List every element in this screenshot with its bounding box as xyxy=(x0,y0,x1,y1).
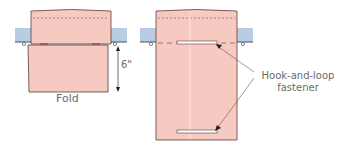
right-figure-full-panel xyxy=(140,10,254,141)
callout-line-1: Hook-and-loop xyxy=(256,70,338,82)
rod-ring-icon xyxy=(149,42,152,45)
full-panel xyxy=(156,10,237,141)
curtain-rod-right xyxy=(236,28,253,42)
rod-ring-icon xyxy=(113,42,116,45)
curtain-rod-left xyxy=(140,28,157,42)
fastener-callout: Hook-and-loop fastener xyxy=(256,70,338,94)
folded-flap xyxy=(28,45,108,92)
rod-ring-icon xyxy=(22,42,25,45)
callout-line-2: fastener xyxy=(256,82,338,94)
rod-ring-icon xyxy=(241,42,244,45)
curtain-rod-right xyxy=(110,28,127,42)
left-figure-folded-panel xyxy=(15,10,127,93)
upper-panel xyxy=(31,10,111,45)
fold-caption: Fold xyxy=(56,92,79,105)
fastener-strip-top xyxy=(177,41,217,44)
dimension-label: 6" xyxy=(121,59,132,70)
fastener-strip-bottom xyxy=(177,130,217,133)
curtain-rod-left xyxy=(15,28,32,42)
